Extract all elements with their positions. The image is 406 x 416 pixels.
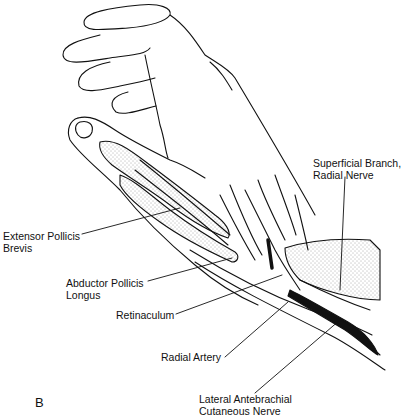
label-line: Superficial Branch, xyxy=(313,157,401,169)
label-superficial-branch-radial-nerve: Superficial Branch, Radial Nerve xyxy=(313,157,401,181)
leader-radial-artery xyxy=(225,302,288,357)
finger-index xyxy=(84,5,170,30)
label-retinaculum: Retinaculum xyxy=(116,309,174,321)
label-line: Cutaneous Nerve xyxy=(199,405,292,416)
anatomical-figure: Superficial Branch, Radial Nerve Extenso… xyxy=(0,0,406,416)
label-line: Radial Nerve xyxy=(313,169,401,181)
label-line: Abductor Pollicis xyxy=(66,277,144,289)
label-abductor-pollicis-longus: Abductor Pollicis Longus xyxy=(66,277,144,301)
label-line: Longus xyxy=(66,289,144,301)
radial-artery-vessel xyxy=(288,290,378,355)
panel-letter: B xyxy=(35,395,44,410)
label-line: Brevis xyxy=(3,242,80,254)
label-extensor-pollicis-brevis: Extensor Pollicis Brevis xyxy=(3,230,80,254)
finger-ring xyxy=(79,62,155,91)
forearm-stipple xyxy=(285,239,380,300)
label-lateral-antebrachial-cutaneous-nerve: Lateral Antebrachial Cutaneous Nerve xyxy=(199,393,292,416)
finger-little xyxy=(112,92,156,113)
finger-middle xyxy=(63,35,150,62)
hand-dorsum-outline xyxy=(170,15,315,215)
leader-lateral-antebrachial xyxy=(255,320,340,393)
label-line: Radial Artery xyxy=(161,351,221,363)
label-radial-artery: Radial Artery xyxy=(161,351,221,363)
label-line: Retinaculum xyxy=(116,309,174,321)
label-line: Lateral Antebrachial xyxy=(199,393,292,405)
label-line: Extensor Pollicis xyxy=(3,230,80,242)
leader-retinaculum xyxy=(176,275,282,314)
